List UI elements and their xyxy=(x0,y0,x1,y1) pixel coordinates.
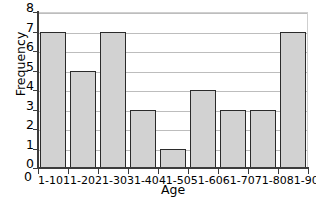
y-axis-tick-label: 8 xyxy=(18,2,34,15)
bar-slot xyxy=(38,12,68,168)
bar-slot xyxy=(68,12,98,168)
bar[interactable] xyxy=(100,32,126,169)
x-origin-label: 0 xyxy=(24,171,32,184)
bar[interactable] xyxy=(190,90,216,168)
histogram-chart: Frequency 012345678 1-1011-2021-3031-404… xyxy=(0,0,316,199)
y-axis-tick-label: 3 xyxy=(18,99,34,112)
y-axis-tick-label: 6 xyxy=(18,41,34,54)
bar[interactable] xyxy=(220,110,246,169)
bar[interactable] xyxy=(160,149,186,169)
bar[interactable] xyxy=(40,32,66,169)
bars-layer xyxy=(38,12,308,168)
x-axis-title: Age xyxy=(38,183,308,197)
bar[interactable] xyxy=(280,32,306,169)
bar-slot xyxy=(278,12,308,168)
y-axis-line xyxy=(37,11,39,169)
y-axis-tick-label: 2 xyxy=(18,119,34,132)
y-axis-tick-label: 7 xyxy=(18,21,34,34)
bar-slot xyxy=(158,12,188,168)
y-axis-tick-label: 5 xyxy=(18,60,34,73)
bar-slot xyxy=(218,12,248,168)
bar-slot xyxy=(98,12,128,168)
y-axis-tick-label: 4 xyxy=(18,80,34,93)
bar-slot xyxy=(248,12,278,168)
y-axis-tick-labels: 012345678 xyxy=(18,8,34,168)
bar-slot xyxy=(188,12,218,168)
bar[interactable] xyxy=(70,71,96,169)
bar-slot xyxy=(128,12,158,168)
y-axis-tick-label: 1 xyxy=(18,138,34,151)
bar[interactable] xyxy=(250,110,276,169)
bar[interactable] xyxy=(130,110,156,169)
